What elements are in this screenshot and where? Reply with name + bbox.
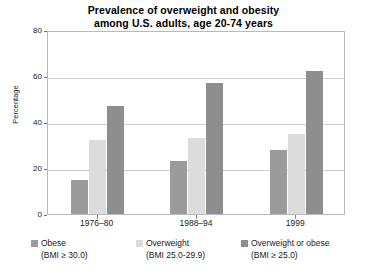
bar	[89, 140, 106, 214]
bar	[170, 161, 187, 214]
y-tick-label: 80	[2, 26, 42, 35]
legend-item[interactable]: Overweight(BMI 25.0-29.9)	[136, 238, 205, 261]
legend-item[interactable]: Obese(BMI ≥ 30.0)	[31, 238, 88, 261]
bar	[71, 180, 88, 215]
y-tick-mark	[44, 215, 47, 216]
y-tick-label: 60	[2, 72, 42, 81]
chart-title-line-2: among U.S. adults, age 20-74 years	[0, 17, 367, 30]
legend-sublabel: (BMI ≥ 25.0)	[251, 250, 329, 262]
bar	[107, 106, 124, 214]
x-tick-label: 1976–80	[57, 218, 137, 228]
chart-title: Prevalence of overweight and obesity amo…	[0, 4, 367, 29]
x-tick-label: 1999	[255, 218, 335, 228]
legend-sublabel: (BMI ≥ 30.0)	[41, 250, 88, 262]
bar	[206, 83, 223, 214]
legend-label: Overweight or obese	[251, 238, 329, 248]
chart-legend: Obese(BMI ≥ 30.0)Overweight(BMI 25.0-29.…	[0, 238, 367, 270]
bar	[288, 134, 305, 215]
legend-item[interactable]: Overweight or obese(BMI ≥ 25.0)	[241, 238, 329, 261]
legend-swatch-icon	[31, 240, 38, 247]
bar	[306, 71, 323, 214]
legend-label: Overweight	[146, 238, 189, 248]
y-tick-label: 0	[2, 210, 42, 219]
legend-label: Obese	[41, 238, 66, 248]
bar-group	[247, 32, 346, 214]
legend-swatch-icon	[241, 240, 248, 247]
bar-group	[48, 32, 147, 214]
bar	[270, 150, 287, 214]
legend-swatch-icon	[136, 240, 143, 247]
y-tick-label: 20	[2, 164, 42, 173]
chart-title-line-1: Prevalence of overweight and obesity	[0, 4, 367, 17]
bar	[188, 138, 205, 214]
bar-group	[147, 32, 246, 214]
x-tick-label: 1988–94	[156, 218, 236, 228]
legend-sublabel: (BMI 25.0-29.9)	[146, 250, 205, 262]
plot-area	[47, 31, 345, 215]
bar-chart: Prevalence of overweight and obesity amo…	[0, 0, 367, 271]
y-tick-label: 40	[2, 118, 42, 127]
